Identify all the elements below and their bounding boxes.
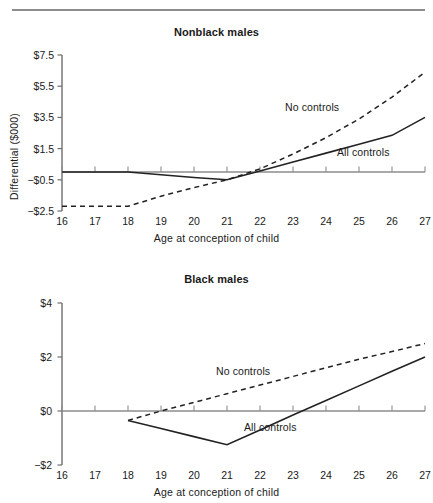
x-tick-label-bottom-8: 24 — [320, 469, 332, 481]
y-tick-label-top-1: −$0.5 — [4, 174, 54, 186]
y-tick-label-top-2: $1.5 — [4, 143, 54, 155]
x-tick-label-bottom-2: 18 — [122, 469, 134, 481]
x-tick-label-top-11: 27 — [419, 215, 431, 227]
x-axis-title-bottom: Age at conception of child — [0, 486, 433, 498]
x-tick-label-bottom-9: 25 — [353, 469, 365, 481]
plot-svg-black-males — [62, 303, 425, 465]
series-annotation-no-controls-bottom: No controls — [216, 365, 270, 377]
y-tick-label-top-4: $5.5 — [4, 80, 54, 92]
x-tick-label-top-0: 16 — [56, 215, 68, 227]
x-tick-label-bottom-10: 26 — [386, 469, 398, 481]
series-annotation-all-controls-bottom: All controls — [244, 421, 297, 433]
x-tick-label-top-10: 26 — [386, 215, 398, 227]
x-tick-label-bottom-11: 27 — [419, 469, 431, 481]
series-annotation-no-controls-top: No controls — [285, 101, 339, 113]
top-horizontal-rule — [12, 9, 425, 11]
series-line-no-controls-bottom — [128, 344, 425, 421]
x-tick-label-top-4: 20 — [188, 215, 200, 227]
x-tick-label-bottom-4: 20 — [188, 469, 200, 481]
x-tick-label-bottom-0: 16 — [56, 469, 68, 481]
chart-title-nonblack-males: Nonblack males — [0, 26, 433, 38]
y-tick-label-bottom-1: $0 — [4, 405, 52, 417]
x-tick-label-bottom-3: 19 — [155, 469, 167, 481]
x-tick-label-bottom-6: 22 — [254, 469, 266, 481]
y-tick-label-bottom-0: −$2 — [4, 459, 52, 471]
y-tick-label-top-5: $7.5 — [4, 49, 54, 61]
x-tick-label-top-5: 21 — [221, 215, 233, 227]
plot-area-black-males — [62, 303, 425, 465]
series-annotation-all-controls-top: All controls — [337, 146, 390, 158]
x-tick-label-top-6: 22 — [254, 215, 266, 227]
x-axis-title-top: Age at conception of child — [0, 232, 433, 244]
plot-area-nonblack-males — [62, 55, 425, 211]
x-tick-label-bottom-5: 21 — [221, 469, 233, 481]
y-tick-label-bottom-2: $2 — [4, 351, 52, 363]
x-tick-label-top-2: 18 — [122, 215, 134, 227]
chart-panel-nonblack-males: Nonblack males Differential ($000) −$2.5… — [0, 18, 433, 263]
chart-title-black-males: Black males — [0, 273, 433, 285]
x-tick-label-top-9: 25 — [353, 215, 365, 227]
series-line-no-controls-top — [62, 72, 425, 206]
x-tick-label-bottom-1: 17 — [89, 469, 101, 481]
x-tick-label-top-7: 23 — [287, 215, 299, 227]
x-ticks-top — [62, 167, 425, 173]
x-tick-label-top-8: 24 — [320, 215, 332, 227]
y-tick-label-bottom-3: $4 — [4, 297, 52, 309]
chart-panel-black-males: Black males Differential ($000) −$2 $0 $… — [0, 263, 433, 503]
plot-svg-nonblack-males — [62, 55, 425, 211]
y-tick-label-top-3: $3.5 — [4, 111, 54, 123]
x-tick-label-top-3: 19 — [155, 215, 167, 227]
x-tick-label-bottom-7: 23 — [287, 469, 299, 481]
x-tick-label-top-1: 17 — [89, 215, 101, 227]
x-ticks-bottom — [62, 406, 425, 412]
y-tick-label-top-0: −$2.5 — [4, 205, 54, 217]
